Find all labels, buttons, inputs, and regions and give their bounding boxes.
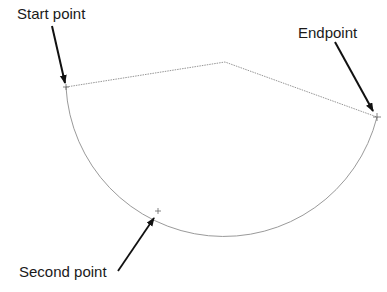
endpoint-label: Endpoint: [298, 25, 357, 40]
arc-diagram-canvas: [0, 0, 387, 292]
guide-polyline: [66, 62, 377, 117]
start-point-label: Start point: [17, 6, 85, 21]
second-point-arrow: [118, 218, 154, 271]
endpoint-arrow: [335, 42, 373, 111]
arc-curve: [66, 87, 377, 236]
second-point-label: Second point: [19, 264, 107, 279]
start-point-arrow: [52, 26, 65, 83]
start-point-marker: [63, 84, 69, 90]
end-point-marker: [373, 113, 381, 121]
second-point-marker: [155, 208, 161, 214]
